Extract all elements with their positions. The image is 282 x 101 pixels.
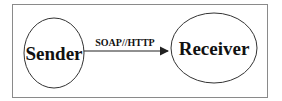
receiver-label: Receiver [179, 38, 250, 59]
receiver-node: Receiver [171, 13, 257, 83]
edge-label: SOAP//HTTP [95, 37, 154, 48]
sender-label: Sender [26, 43, 84, 64]
connection-edge: SOAP//HTTP [84, 37, 168, 51]
diagram-canvas: Sender SOAP//HTTP Receiver [0, 0, 282, 101]
sender-node: Sender [24, 18, 84, 88]
